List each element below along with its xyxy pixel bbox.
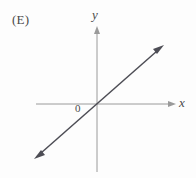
origin-label: 0 <box>75 103 81 114</box>
x-axis-label: x <box>179 96 185 109</box>
y-axis-arrowhead-icon <box>94 26 100 34</box>
x-axis <box>36 101 176 107</box>
plotted-line-segment <box>41 51 157 153</box>
figure-container: (E) y x 0 <box>0 0 196 178</box>
plotted-line <box>34 45 164 159</box>
y-axis-label: y <box>92 8 98 21</box>
y-axis <box>94 26 100 172</box>
x-axis-arrowhead-icon <box>168 101 176 107</box>
choice-label: (E) <box>12 13 29 26</box>
coordinate-plane-graphic <box>0 0 196 178</box>
